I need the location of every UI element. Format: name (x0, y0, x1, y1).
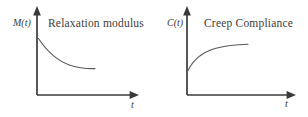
x-axis-arrowhead-icon (287, 91, 296, 99)
y-axis-arrowhead-icon (183, 6, 191, 15)
x-axis-label-text: t (285, 98, 288, 109)
figure-container: M(t) t Relaxation modulus C(t) t Creep C… (0, 0, 308, 117)
x-axis-label: t (131, 100, 134, 110)
plot-title: Creep Compliance (204, 18, 293, 30)
relaxation-modulus-curve (39, 39, 96, 69)
creep-compliance-panel: C(t) t Creep Compliance (154, 0, 308, 117)
y-axis-label-text: C(t) (167, 17, 183, 28)
x-axis-label: t (285, 99, 288, 109)
relaxation-modulus-panel: M(t) t Relaxation modulus (0, 0, 154, 117)
x-axis-label-text: t (131, 99, 134, 110)
y-axis-label: C(t) (167, 18, 183, 28)
plot-title: Relaxation modulus (48, 18, 144, 30)
x-axis-arrowhead-icon (130, 91, 139, 99)
y-axis-label-text: M(t) (13, 17, 31, 28)
creep-compliance-curve (188, 44, 248, 70)
y-axis-label: M(t) (13, 18, 31, 28)
y-axis-arrowhead-icon (33, 6, 41, 15)
